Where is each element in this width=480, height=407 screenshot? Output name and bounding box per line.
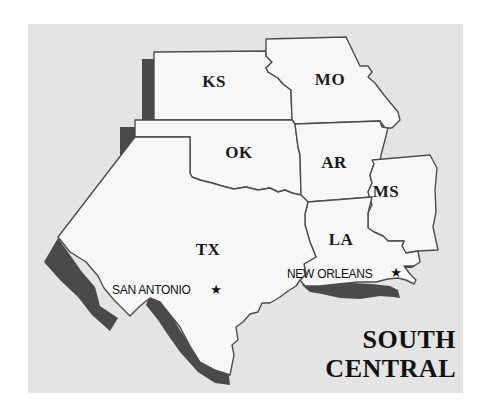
state-label-mo: MO (315, 70, 345, 90)
state-label-la: LA (329, 230, 354, 250)
region-title-line-2: CENTRAL (325, 354, 456, 383)
city-label-new-orleans: NEW ORLEANS (287, 267, 372, 281)
state-label-ok: OK (225, 143, 252, 163)
state-label-tx: TX (196, 240, 221, 260)
city-label-san-antonio: SAN ANTONIO (112, 283, 191, 297)
south-central-map: KS MO OK AR MS LA TX SAN ANTONIO ★ NEW O… (0, 0, 480, 407)
region-title: SOUTH CENTRAL (325, 325, 456, 383)
state-label-ms: MS (373, 182, 400, 202)
state-label-ar: AR (321, 153, 347, 173)
city-star-icon: ★ (210, 282, 222, 297)
state-label-ks: KS (202, 72, 226, 92)
region-title-line-1: SOUTH (325, 325, 456, 354)
city-star-icon: ★ (390, 265, 402, 280)
